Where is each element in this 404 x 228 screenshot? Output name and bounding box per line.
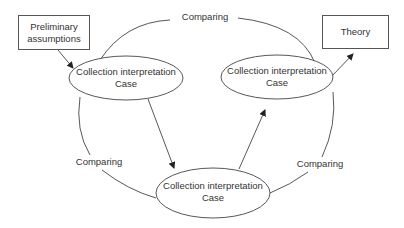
comparing-label-left: Comparing [69,156,129,168]
case-left-line2: Case [69,78,183,90]
comparing-arc-top [100,20,170,60]
comparing-label-top: Comparing [175,11,235,23]
case-bottom-text: Collection interpretation Case [156,180,270,204]
preliminary-line1: Preliminary [30,21,78,33]
case-bottom-line2: Case [156,192,270,204]
comparing-arc-left-lower [102,170,156,198]
arrow-left-to-bottom [148,99,174,168]
arrow-bottom-to-right [239,110,265,169]
case-bottom-line1: Collection interpretation [156,180,270,192]
diagram-canvas: Preliminary assumptions Theory Collectio… [0,0,404,228]
case-right-line1: Collection interpretation [221,65,333,77]
case-right-text: Collection interpretation Case [221,65,333,89]
case-left-text: Collection interpretation Case [69,66,183,90]
case-right-line2: Case [221,77,333,89]
case-left-line1: Collection interpretation [69,66,183,78]
theory-label: Theory [341,26,371,38]
comparing-arc-right-upper [322,92,334,157]
arrow-right-to-theory [333,54,353,75]
comparing-arc-right-lower [270,172,308,193]
theory-box: Theory [322,15,389,49]
comparing-label-right: Comparing [290,158,350,170]
preliminary-assumptions-box: Preliminary assumptions [18,15,90,50]
preliminary-line2: assumptions [27,33,80,45]
comparing-arc-left-upper [79,97,90,155]
